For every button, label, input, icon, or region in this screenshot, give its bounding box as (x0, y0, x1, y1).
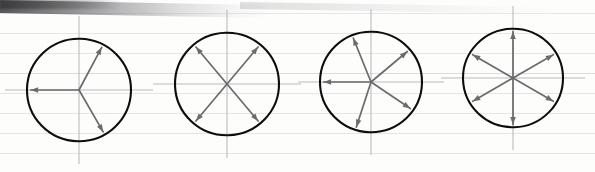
diagram-circle-3 (298, 9, 444, 155)
vector-arrowhead (97, 124, 103, 132)
vector-arrowhead (403, 102, 411, 109)
diagram-circle-1 (5, 16, 153, 164)
diagram-circle-4 (441, 6, 585, 150)
vector-arrowhead (353, 38, 358, 46)
diagram-circle-2 (153, 10, 301, 158)
vector-arrowhead (510, 117, 516, 125)
roots-of-unity-figures (0, 0, 595, 172)
vector-arrowhead (31, 87, 39, 93)
vector-arrowhead (510, 32, 516, 40)
vector-arrowhead (545, 55, 553, 61)
vector-arrowhead (96, 47, 102, 55)
vector-arrowhead (545, 95, 553, 101)
vector-arrowhead (473, 95, 481, 101)
notebook-page: 3 vectors 4 vectors 5 vectors 6 vectors … (0, 0, 595, 172)
vector-arrowhead (356, 119, 361, 127)
vector-arrowhead (473, 55, 481, 61)
vector-arrowhead (324, 79, 332, 85)
